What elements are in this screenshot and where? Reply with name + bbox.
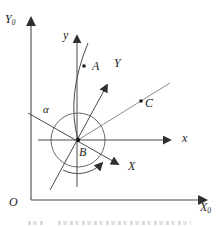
figure-canvas: Y0 y A Y C α x B X O X0 [0,0,221,227]
body-x-axis-label: x [182,132,187,144]
point-c-dot [139,99,143,103]
curve-through-point-a [74,43,88,140]
rotated-X-axis-line [28,113,118,164]
cropped-caption-fragment [58,221,191,225]
point-a-dot [82,64,86,68]
rotated-x-axis-label: X [128,160,135,172]
rotated-Y-axis-line [50,85,107,190]
point-b-dot [76,138,80,142]
angle-alpha-label: α [43,104,49,115]
rotated-y-axis-label: Y [114,57,121,69]
point-b-label: B [79,146,86,158]
fixed-x-axis-label: X0 [200,201,211,215]
ray-through-point-c [78,83,170,140]
point-a-label: A [92,60,99,72]
origin-label: O [9,196,18,208]
fixed-y-axis-label: Y0 [5,13,15,27]
rotation-direction-arc [63,163,102,174]
body-y-axis-label: y [63,29,68,41]
diagram-svg [0,0,221,227]
cropped-caption-fragment-left [28,221,44,225]
point-c-label: C [145,97,153,109]
